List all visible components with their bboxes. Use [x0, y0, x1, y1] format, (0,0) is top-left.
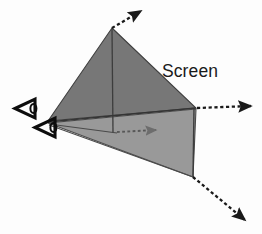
eye-icon: [35, 118, 55, 137]
scene-canvas: Screen: [0, 0, 262, 234]
screen-label: Screen: [162, 61, 218, 81]
upper-viewpoint[interactable]: [15, 99, 36, 118]
bottom-ray: [193, 177, 245, 220]
screen-projection-diagram: Screen: [0, 0, 262, 234]
top-ray: [112, 11, 141, 28]
right-vertical-edge: [193, 108, 194, 177]
middle-right-ray: [197, 106, 251, 108]
eye-icon: [15, 99, 35, 118]
eye-pupil-icon: [30, 104, 36, 113]
